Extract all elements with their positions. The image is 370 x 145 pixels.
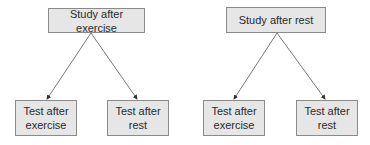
- arrow-rest-to-test-exercise: [234, 33, 277, 99]
- node-label: Study after exercise: [49, 7, 144, 35]
- node-label: Test afterexercise: [23, 104, 68, 132]
- node-test-after-rest-1: Test afterrest: [107, 100, 169, 136]
- node-study-after-exercise: Study after exercise: [48, 8, 145, 33]
- node-study-after-rest: Study after rest: [226, 7, 326, 33]
- node-test-after-exercise-1: Test afterexercise: [15, 100, 77, 136]
- node-label: Study after rest: [239, 13, 314, 27]
- arrow-exercise-to-test-rest: [91, 33, 137, 99]
- node-test-after-exercise-2: Test afterexercise: [203, 100, 265, 136]
- node-label: Test afterrest: [115, 104, 160, 132]
- node-label: Test afterexercise: [211, 104, 256, 132]
- arrow-rest-to-test-rest: [277, 33, 325, 99]
- node-label: Test afterrest: [304, 104, 349, 132]
- arrow-exercise-to-test-exercise: [47, 33, 91, 99]
- node-test-after-rest-2: Test afterrest: [296, 100, 358, 136]
